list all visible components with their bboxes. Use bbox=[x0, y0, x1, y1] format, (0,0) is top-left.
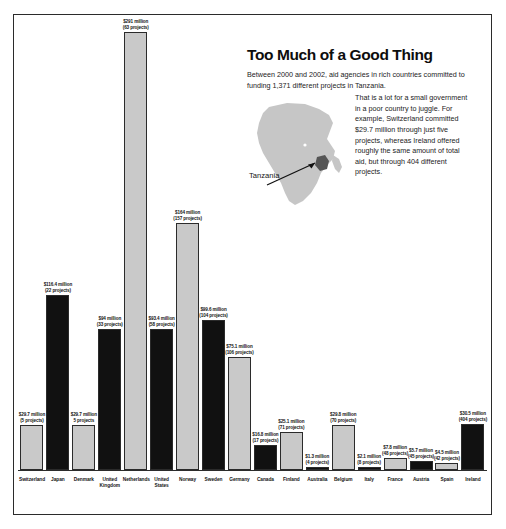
bar-value-label: $29.8 million(70 projects) bbox=[330, 412, 356, 423]
page-title: Too Much of a Good Thing bbox=[247, 46, 472, 63]
bar-project-count: (104 projects) bbox=[199, 313, 227, 318]
story-panel: Too Much of a Good Thing Between 2000 an… bbox=[247, 46, 472, 213]
bar-group: $291 million(63 projects) bbox=[123, 19, 149, 470]
bar-amount: $5.7 million bbox=[409, 448, 433, 453]
bar-france[interactable] bbox=[384, 458, 407, 470]
bar-value-label: $291 million(63 projects) bbox=[123, 19, 149, 30]
bar-project-count: (404 projects) bbox=[459, 417, 487, 422]
bar-amount: $93.4 million bbox=[149, 316, 175, 321]
bar-value-label: $75.1 million(106 projects) bbox=[225, 344, 253, 355]
x-tick-denmark: Denmark bbox=[71, 475, 97, 507]
story-body: Tanzania That is a lot for a small gover… bbox=[247, 93, 472, 213]
bar-project-count: (17 projects) bbox=[252, 438, 278, 443]
bar-amount: $116.4 million bbox=[44, 282, 72, 287]
bar-group: $164 million(157 projects) bbox=[175, 19, 201, 470]
story-lede: Between 2000 and 2002, aid agencies in r… bbox=[247, 70, 472, 91]
x-tick-canada: Canada bbox=[252, 475, 278, 507]
bar-project-count: (58 projects) bbox=[149, 322, 175, 327]
x-tick-ireland: Ireland bbox=[460, 475, 486, 507]
bar-amount: $29.7 million bbox=[71, 412, 97, 417]
bar-project-count: (33 projects) bbox=[97, 322, 123, 327]
x-tick-switzerland: Switzerland bbox=[19, 475, 45, 507]
bar-united-states[interactable] bbox=[150, 329, 173, 470]
bar-amount: $29.7 million bbox=[19, 412, 45, 417]
bar-value-label: $25.1 million(71 projects) bbox=[278, 419, 304, 430]
bar-amount: $164 million bbox=[175, 210, 200, 215]
bar-value-label: $2.1 million(8 projects) bbox=[357, 454, 381, 465]
bar-belgium[interactable] bbox=[332, 425, 355, 470]
x-tick-finland: Finland bbox=[278, 475, 304, 507]
bar-group: $94 million(33 projects) bbox=[97, 19, 123, 470]
map-region-label: Tanzania bbox=[249, 171, 279, 180]
bar-project-count: (70 projects) bbox=[330, 418, 356, 423]
x-tick-italy: Italy bbox=[356, 475, 382, 507]
bar-value-label: $99.6 million(104 projects) bbox=[199, 307, 227, 318]
x-tick-belgium: Belgium bbox=[330, 475, 356, 507]
bar-sweden[interactable] bbox=[202, 320, 225, 470]
bar-value-label: $29.7 million(5 projects) bbox=[19, 412, 45, 423]
bar-amount: $1.3 million bbox=[305, 454, 329, 459]
infographic-root: $29.7 million(5 projects)$116.4 million(… bbox=[0, 0, 506, 529]
bar-project-count: (71 projects) bbox=[278, 425, 304, 430]
bar-switzerland[interactable] bbox=[20, 425, 43, 470]
bar-amount: $94 million bbox=[98, 316, 121, 321]
bar-value-label: $116.4 million(22 projects) bbox=[44, 282, 72, 293]
bar-project-count: (157 projects) bbox=[173, 216, 201, 221]
bar-japan[interactable] bbox=[46, 295, 69, 470]
bar-group: $93.4 million(58 projects) bbox=[149, 19, 175, 470]
story-paragraph: That is a lot for a small government in … bbox=[355, 93, 472, 178]
bar-group: $99.6 million(104 projects) bbox=[201, 19, 227, 470]
x-tick-united-kingdom: United Kingdom bbox=[97, 475, 123, 507]
bar-finland[interactable] bbox=[280, 432, 303, 470]
bar-project-count: (42 projects) bbox=[434, 456, 460, 461]
bar-ireland[interactable] bbox=[461, 424, 484, 470]
x-tick-norway: Norway bbox=[175, 475, 201, 507]
bar-project-count: (45 projects) bbox=[408, 454, 434, 459]
x-tick-united-states: United States bbox=[149, 475, 175, 507]
bar-value-label: $4.5 million(42 projects) bbox=[434, 450, 460, 461]
bar-united-kingdom[interactable] bbox=[98, 329, 121, 470]
x-tick-germany: Germany bbox=[227, 475, 253, 507]
bar-norway[interactable] bbox=[176, 223, 199, 470]
x-tick-netherlands: Netherlands bbox=[123, 475, 149, 507]
bar-spain[interactable] bbox=[435, 463, 458, 470]
bar-project-count: (48 projects) bbox=[382, 451, 408, 456]
bar-amount: $30.5 million bbox=[460, 411, 486, 416]
bar-group: $116.4 million(22 projects) bbox=[45, 19, 71, 470]
bar-group: $29.7 million(5 projects) bbox=[19, 19, 45, 470]
x-axis-tick-labels: SwitzerlandJapanDenmarkUnited KingdomNet… bbox=[19, 475, 486, 507]
bar-amount: $99.6 million bbox=[200, 307, 226, 312]
bar-austria[interactable] bbox=[410, 461, 433, 470]
x-tick-spain: Spain bbox=[434, 475, 460, 507]
bar-project-count: (106 projects) bbox=[225, 350, 253, 355]
bar-canada[interactable] bbox=[254, 445, 277, 470]
bar-value-label: $16.8 million(17 projects) bbox=[252, 432, 278, 443]
africa-map-icon bbox=[247, 99, 351, 211]
bar-value-label: $29.7 million5 projects bbox=[71, 412, 97, 423]
bar-project-count: (8 projects) bbox=[357, 460, 381, 465]
bar-project-count: (5 projects) bbox=[19, 418, 45, 423]
bar-amount: $25.1 million bbox=[278, 419, 304, 424]
bar-denmark[interactable] bbox=[72, 425, 95, 470]
bar-amount: $291 million bbox=[123, 19, 148, 24]
bar-project-count: (63 projects) bbox=[123, 25, 149, 30]
bar-project-count: (22 projects) bbox=[44, 288, 72, 293]
bar-value-label: $94 million(33 projects) bbox=[97, 316, 123, 327]
bar-value-label: $7.8 million(48 projects) bbox=[382, 445, 408, 456]
bar-amount: $29.8 million bbox=[330, 412, 356, 417]
bar-value-label: $30.5 million(404 projects) bbox=[459, 411, 487, 422]
bar-group: $29.7 million5 projects bbox=[71, 19, 97, 470]
bar-project-count: 5 projects bbox=[71, 418, 97, 423]
x-tick-austria: Austria bbox=[408, 475, 434, 507]
bar-germany[interactable] bbox=[228, 357, 251, 470]
bar-value-label: $1.3 million(4 projects) bbox=[305, 454, 329, 465]
x-tick-sweden: Sweden bbox=[201, 475, 227, 507]
bar-value-label: $164 million(157 projects) bbox=[173, 210, 201, 221]
bar-value-label: $93.4 million(58 projects) bbox=[149, 316, 175, 327]
bar-netherlands[interactable] bbox=[124, 32, 147, 470]
bar-project-count: (4 projects) bbox=[305, 460, 329, 465]
bar-amount: $16.8 million bbox=[252, 432, 278, 437]
bar-amount: $7.8 million bbox=[383, 445, 407, 450]
bar-value-label: $5.7 million(45 projects) bbox=[408, 448, 434, 459]
x-axis-line bbox=[18, 470, 487, 471]
